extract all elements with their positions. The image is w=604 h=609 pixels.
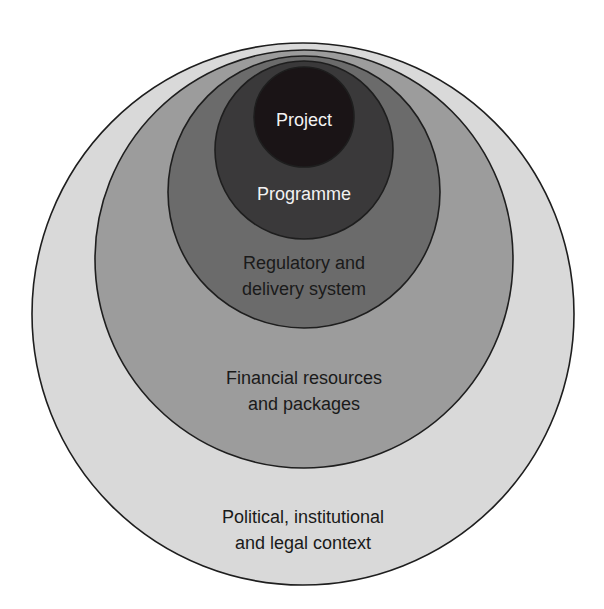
layer-project: Project: [254, 67, 354, 167]
label-political-line-2: and legal context: [235, 533, 371, 553]
nested-circles-diagram: Political, institutional and legal conte…: [0, 0, 604, 609]
label-financial-line-1: Financial resources: [226, 368, 382, 388]
label-regulatory-line-1: Regulatory and: [243, 253, 365, 273]
label-political-line-1: Political, institutional: [222, 507, 384, 527]
label-financial-line-2: and packages: [248, 394, 360, 414]
label-project: Project: [276, 110, 332, 130]
label-programme: Programme: [257, 184, 351, 204]
label-regulatory-line-2: delivery system: [242, 279, 366, 299]
